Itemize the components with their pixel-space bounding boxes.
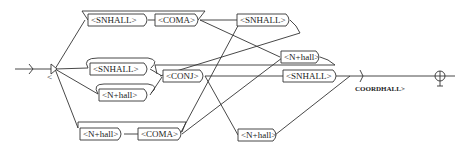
node-coma-bottom[interactable]: <COMA>	[138, 128, 181, 140]
node-nhall-mid[interactable]: <N+hall>	[99, 89, 147, 101]
svg-text:<SNHALL>: <SNHALL>	[91, 15, 137, 25]
initial-state-label: <	[47, 72, 52, 82]
node-snhall-mid[interactable]: <SNHALL>	[90, 63, 147, 75]
node-snhall-top[interactable]: <SNHALL>	[88, 14, 147, 26]
svg-text:<N+hall>: <N+hall>	[284, 52, 319, 62]
svg-text:<N+hall>: <N+hall>	[241, 130, 276, 140]
svg-text:<N+hall>: <N+hall>	[102, 90, 137, 100]
output-label: COORDHALL>	[355, 85, 405, 93]
svg-text:<COMA>: <COMA>	[141, 129, 178, 139]
svg-text:<CONJ>: <CONJ>	[166, 71, 199, 81]
node-coma-top[interactable]: <COMA>	[155, 14, 198, 26]
node-snhall-upper-right[interactable]: <SNHALL>	[237, 14, 289, 26]
svg-text:<SNHALL>: <SNHALL>	[240, 15, 286, 25]
svg-text:<N+hall>: <N+hall>	[83, 129, 118, 139]
svg-text:<SNHALL>: <SNHALL>	[286, 71, 332, 81]
node-nhall-bottom-right[interactable]: <N+hall>	[238, 129, 276, 141]
svg-text:<SNHALL>: <SNHALL>	[93, 64, 139, 74]
svg-text:<COMA>: <COMA>	[158, 15, 195, 25]
node-conj[interactable]: <CONJ>	[163, 70, 203, 82]
node-snhall-right[interactable]: <SNHALL>	[283, 70, 336, 82]
final-state-icon[interactable]	[435, 71, 445, 86]
node-nhall-bottom-left[interactable]: <N+hall>	[80, 128, 121, 140]
graph-edges	[15, 11, 455, 135]
graph-canvas: < <SNHALL> <COMA> <SNHALL> <SNHALL> <N+h…	[0, 0, 461, 151]
node-nhall-right[interactable]: <N+hall>	[281, 51, 319, 63]
